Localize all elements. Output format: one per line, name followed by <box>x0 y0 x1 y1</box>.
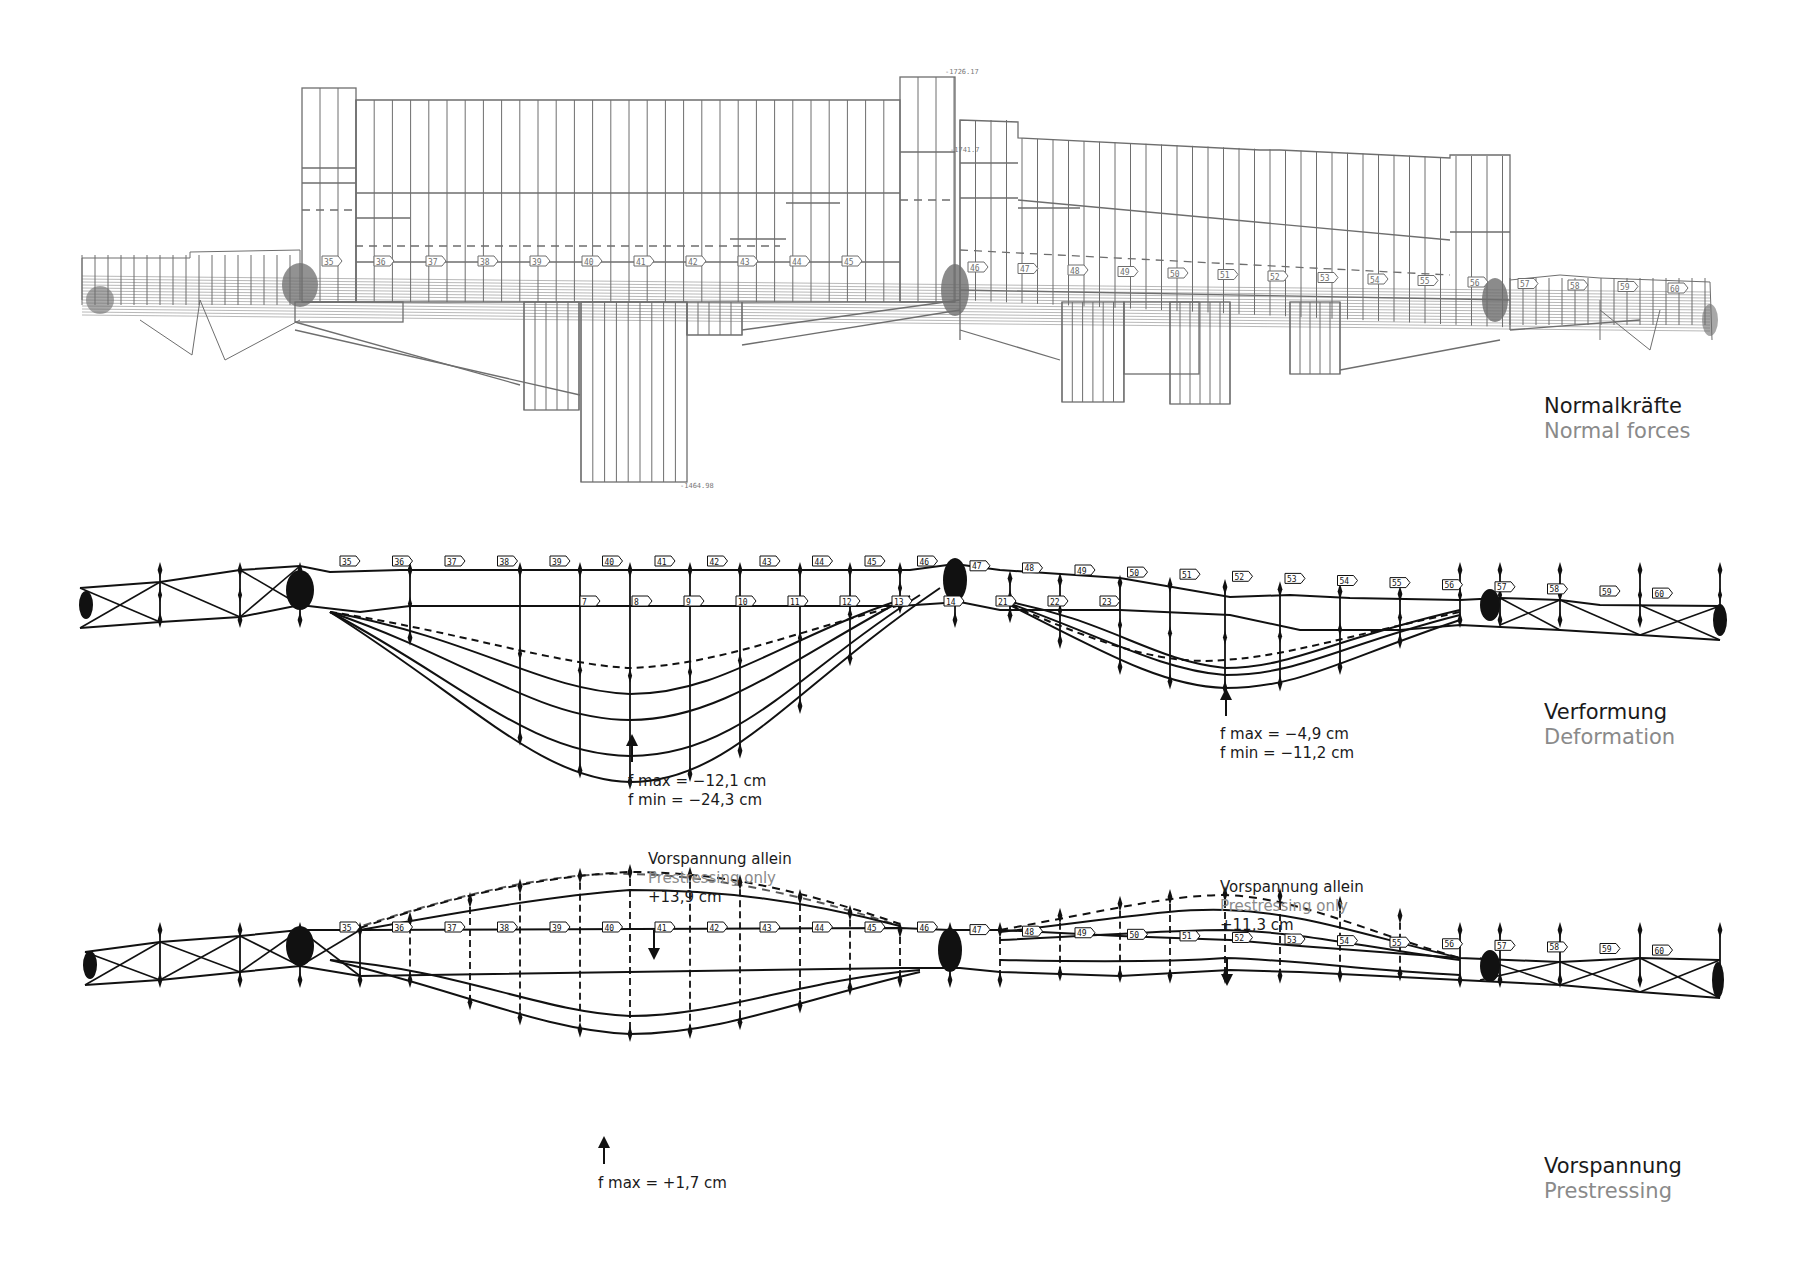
prestressing-caption: Vorspannung Prestressing <box>1544 1154 1682 1204</box>
fmax-label: f max = +1,7 cm <box>598 1174 727 1193</box>
prestress-annotation-left: Vorspannung allein Prestressing only +13… <box>648 850 792 907</box>
svg-text:50: 50 <box>1130 569 1140 578</box>
prestressing-diagram: 3536373839404142434445464748495051525354… <box>0 850 1796 1110</box>
svg-text:14: 14 <box>946 598 956 607</box>
svg-text:57: 57 <box>1497 583 1507 592</box>
svg-text:55: 55 <box>1392 939 1402 948</box>
svg-text:23: 23 <box>1102 598 1112 607</box>
svg-text:49: 49 <box>1077 567 1087 576</box>
caption-title-en: Normal forces <box>1544 419 1690 444</box>
normal-forces-caption: Normalkräfte Normal forces <box>1544 394 1690 444</box>
arrow-up-icon <box>631 736 633 762</box>
svg-text:51: 51 <box>1182 932 1192 941</box>
prestress-title-de: Vorspannung allein <box>648 850 792 869</box>
svg-text:36: 36 <box>395 558 405 567</box>
svg-text:59: 59 <box>1602 945 1612 954</box>
svg-text:60: 60 <box>1670 285 1680 294</box>
svg-text:8: 8 <box>634 598 639 607</box>
svg-text:47: 47 <box>972 562 982 571</box>
force-label-mid: -1741.7 <box>950 146 980 154</box>
svg-text:7: 7 <box>582 598 587 607</box>
svg-text:59: 59 <box>1602 588 1612 597</box>
normal-forces-diagram: 3536373839404142434445464748495051525354… <box>0 0 1796 500</box>
svg-text:11: 11 <box>790 598 800 607</box>
svg-text:43: 43 <box>740 258 750 267</box>
svg-text:38: 38 <box>480 258 490 267</box>
svg-text:60: 60 <box>1655 590 1665 599</box>
arrow-up-icon <box>603 1138 605 1164</box>
caption-title-en: Deformation <box>1544 725 1675 750</box>
arrow-up-icon <box>1225 690 1227 716</box>
fmax-label: f max = −12,1 cm <box>628 772 766 791</box>
svg-text:51: 51 <box>1220 271 1230 280</box>
fmin-label: f min = −11,2 cm <box>1220 744 1354 763</box>
svg-text:42: 42 <box>710 924 720 933</box>
svg-text:49: 49 <box>1077 929 1087 938</box>
prestress-fmax-annotation: f max = +1,7 cm <box>598 1174 727 1193</box>
svg-text:56: 56 <box>1445 581 1455 590</box>
prestress-title-en: Prestressing only <box>648 869 792 888</box>
svg-text:47: 47 <box>972 926 982 935</box>
svg-text:48: 48 <box>1025 564 1035 573</box>
svg-text:43: 43 <box>762 924 772 933</box>
fmin-label: f min = −24,3 cm <box>628 791 766 810</box>
svg-text:41: 41 <box>636 258 646 267</box>
svg-text:47: 47 <box>1020 265 1030 274</box>
svg-text:37: 37 <box>447 924 457 933</box>
svg-text:12: 12 <box>842 598 852 607</box>
svg-text:45: 45 <box>867 558 877 567</box>
svg-text:53: 53 <box>1287 575 1297 584</box>
prestress-title-en: Prestressing only <box>1220 897 1364 916</box>
caption-title-de: Normalkräfte <box>1544 394 1690 419</box>
svg-text:42: 42 <box>688 258 698 267</box>
svg-text:43: 43 <box>762 558 772 567</box>
svg-text:39: 39 <box>532 258 542 267</box>
svg-text:56: 56 <box>1470 279 1480 288</box>
svg-text:40: 40 <box>584 258 594 267</box>
svg-text:22: 22 <box>1050 598 1060 607</box>
svg-text:46: 46 <box>970 264 980 273</box>
force-label-top: -1726.17 <box>945 68 979 76</box>
svg-text:55: 55 <box>1392 579 1402 588</box>
svg-text:44: 44 <box>792 258 802 267</box>
svg-text:35: 35 <box>342 558 352 567</box>
svg-text:54: 54 <box>1340 577 1350 586</box>
svg-text:50: 50 <box>1170 270 1180 279</box>
svg-text:46: 46 <box>920 924 930 933</box>
svg-text:13: 13 <box>894 598 904 607</box>
svg-text:45: 45 <box>867 924 877 933</box>
svg-text:57: 57 <box>1520 280 1530 289</box>
svg-text:58: 58 <box>1550 585 1560 594</box>
prestressing-panel: 3536373839404142434445464748495051525354… <box>0 850 1796 1270</box>
svg-text:35: 35 <box>324 258 334 267</box>
svg-text:50: 50 <box>1130 931 1140 940</box>
svg-text:42: 42 <box>710 558 720 567</box>
normal-forces-panel: 3536373839404142434445464748495051525354… <box>0 0 1796 500</box>
svg-text:60: 60 <box>1655 947 1665 956</box>
caption-title-de: Verformung <box>1544 700 1675 725</box>
svg-text:59: 59 <box>1620 283 1630 292</box>
deformation-caption: Verformung Deformation <box>1544 700 1675 750</box>
prestress-annotation-right: Vorspannung allein Prestressing only +11… <box>1220 878 1364 935</box>
deformation-diagram: 3536373839404142434445464748495051525354… <box>0 540 1796 740</box>
svg-text:10: 10 <box>738 598 748 607</box>
svg-text:45: 45 <box>844 258 854 267</box>
svg-text:54: 54 <box>1370 276 1380 285</box>
prestress-value: +13,9 cm <box>648 888 792 907</box>
svg-text:56: 56 <box>1445 940 1455 949</box>
svg-text:36: 36 <box>395 924 405 933</box>
svg-text:52: 52 <box>1235 573 1245 582</box>
svg-text:48: 48 <box>1070 267 1080 276</box>
svg-text:37: 37 <box>447 558 457 567</box>
svg-text:48: 48 <box>1025 928 1035 937</box>
svg-text:39: 39 <box>552 558 562 567</box>
svg-text:40: 40 <box>605 558 615 567</box>
arrow-down-icon <box>1226 958 1228 984</box>
svg-text:58: 58 <box>1570 282 1580 291</box>
svg-text:53: 53 <box>1287 936 1297 945</box>
prestress-value: +11,3 cm <box>1220 916 1364 935</box>
deformation-annotation-left: f max = −12,1 cm f min = −24,3 cm <box>628 772 766 810</box>
svg-text:46: 46 <box>920 558 930 567</box>
svg-text:52: 52 <box>1235 934 1245 943</box>
deformation-panel: 3536373839404142434445464748495051525354… <box>0 540 1796 820</box>
